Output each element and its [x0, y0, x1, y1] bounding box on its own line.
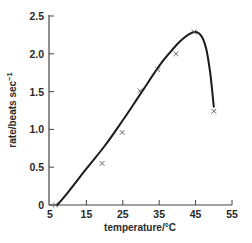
- chart: 00.51.01.52.02.5 51525354555 temperature…: [0, 0, 252, 243]
- y-tick-label: 2.0: [29, 48, 44, 60]
- x-axis-label: temperature/°C: [104, 222, 176, 233]
- x-tick-label: 55: [226, 208, 238, 220]
- y-tick-label: 0.5: [29, 161, 44, 173]
- x-tick-label: 5: [47, 208, 53, 220]
- y-tick-label: 2.5: [29, 10, 44, 22]
- y-ticks: 00.51.01.52.02.5: [29, 10, 54, 211]
- y-axis-label: rate/beats sec−1: [5, 72, 18, 147]
- x-ticks: 51525354555: [47, 200, 238, 220]
- x-tick-label: 25: [117, 208, 129, 220]
- data-point-cross-icon: [100, 161, 105, 166]
- fitted-curve: [57, 32, 214, 205]
- x-tick-label: 15: [81, 208, 93, 220]
- fitted-curve-group: [57, 32, 214, 205]
- y-tick-label: 1.0: [29, 123, 44, 135]
- y-tick-label: 1.5: [29, 86, 44, 98]
- x-tick-label: 45: [190, 208, 202, 220]
- data-point-cross-icon: [120, 130, 125, 135]
- data-point-cross-icon: [174, 51, 179, 56]
- data-point-cross-icon: [211, 109, 216, 114]
- x-tick-label: 35: [153, 208, 165, 220]
- y-tick-label: 0: [38, 199, 44, 211]
